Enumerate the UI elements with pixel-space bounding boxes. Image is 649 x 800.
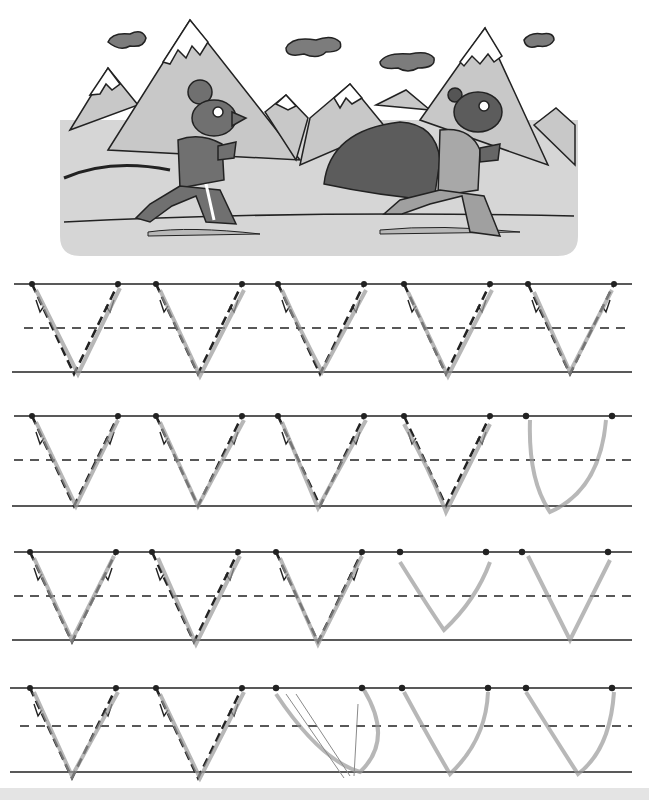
guide-letter-v [153,281,245,374]
tracing-row-1 [12,281,632,376]
pencil-strokes [36,288,612,376]
tracing-rows [0,0,649,800]
pencil-strokes [34,690,614,778]
page-bottom-edge [0,788,649,800]
tracing-row-4 [10,685,632,778]
tracing-row-3 [12,549,632,644]
tracing-row-2 [12,413,632,512]
pencil-strokes [36,420,606,512]
pencil-strokes [34,556,610,644]
